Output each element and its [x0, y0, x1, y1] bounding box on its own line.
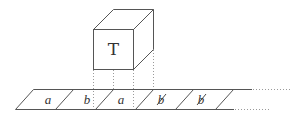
turing-machine-diagram: T a b a b b	[0, 0, 304, 117]
cube-right-face	[134, 10, 154, 70]
head-cube: T	[94, 10, 154, 70]
tape-cell-4-blank-symbol: b	[157, 92, 166, 107]
tape-cell-3-symbol: a	[118, 92, 125, 107]
tape-cell-1-symbol: a	[45, 92, 52, 107]
tape-cell-5-blank-symbol: b	[197, 92, 206, 107]
tape: a b a b b	[16, 90, 293, 110]
tape-cell-2-symbol: b	[84, 92, 91, 107]
cube-top-face	[94, 10, 154, 30]
head-label: T	[108, 39, 120, 59]
